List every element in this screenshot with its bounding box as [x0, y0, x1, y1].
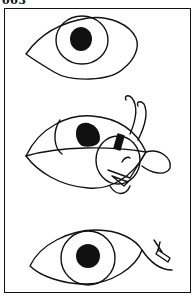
bottom-eye — [30, 230, 172, 285]
creature-wing — [142, 151, 170, 173]
middle-eye-lid-line — [26, 148, 146, 156]
bottom-eye-pupil — [76, 244, 100, 268]
creature-body-loop — [110, 186, 130, 194]
creature-mouth — [122, 157, 130, 162]
creature-antenna-right — [137, 102, 146, 140]
small-object-icon — [154, 240, 170, 262]
top-eye-pupil — [70, 27, 92, 51]
middle-eye-creature — [26, 96, 170, 194]
top-eye — [26, 16, 137, 79]
illustration — [0, 0, 194, 298]
middle-eye-pupil — [76, 123, 100, 147]
